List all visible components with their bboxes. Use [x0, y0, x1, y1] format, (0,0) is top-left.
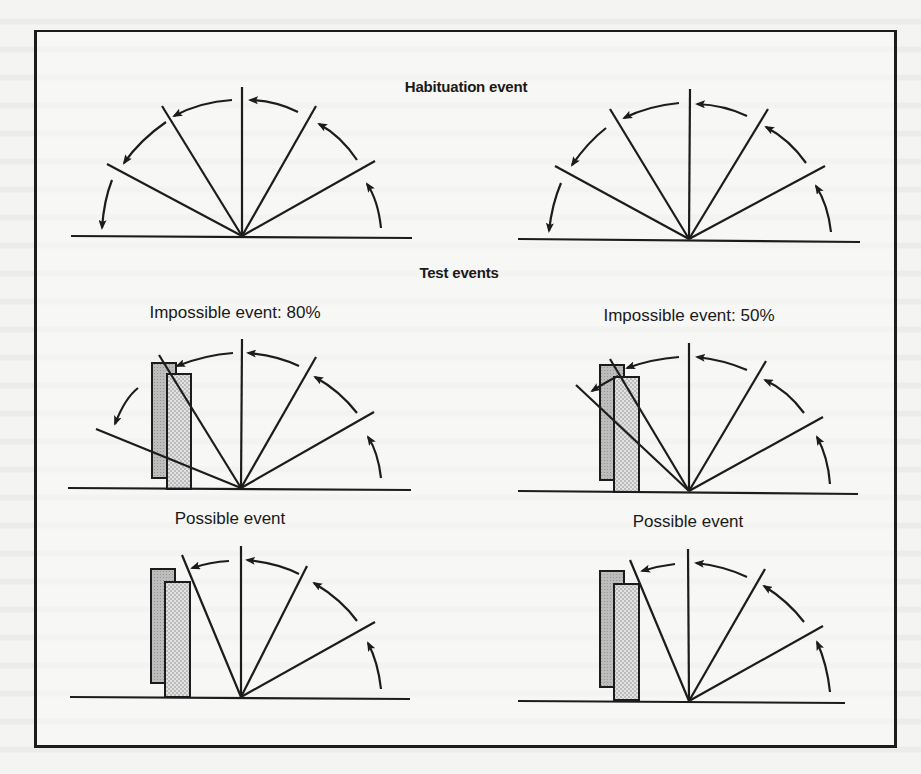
arrow-icon [696, 563, 747, 577]
arrow-icon [816, 186, 831, 232]
screen-position-90 [688, 549, 689, 701]
box-front [167, 374, 191, 489]
arrow-icon [174, 100, 232, 116]
box-front [614, 377, 639, 492]
arrow-icon [627, 357, 679, 368]
habituation-right-panel [518, 89, 860, 242]
ground-line [518, 701, 845, 703]
screen-position-120 [162, 106, 242, 236]
arrow-icon [248, 353, 299, 366]
arrow-icon [247, 560, 299, 574]
arrow-icon [642, 564, 675, 571]
arrow-icon [177, 353, 233, 366]
arrow-icon [624, 103, 679, 118]
screen-position-30 [689, 417, 823, 491]
screen-position-90 [241, 339, 242, 488]
arrow-icon [765, 380, 804, 413]
screen-position-60 [242, 106, 316, 236]
arrow-icon [250, 100, 298, 112]
screen-position-60 [241, 357, 316, 488]
screen-position-150 [555, 166, 689, 239]
screen-position-30 [689, 166, 825, 239]
screen-position-120 [610, 109, 689, 239]
possible-right-label: Possible event [633, 512, 744, 532]
arrow-icon [319, 124, 357, 160]
arrow-icon [368, 643, 381, 689]
screen-position-30 [689, 626, 823, 701]
screen-position-30 [241, 412, 374, 488]
arrow-icon [764, 586, 804, 622]
arrow-icon [115, 388, 138, 424]
drawbridge-diagram [0, 0, 921, 774]
arrow-icon [766, 127, 806, 163]
impossible-50-label: Impossible event: 50% [603, 306, 774, 326]
arrow-icon [817, 437, 830, 484]
screen-position-60 [689, 569, 765, 701]
impossible-80-label: Impossible event: 80% [149, 303, 320, 323]
screen-position-150 [107, 164, 242, 236]
impossible-80-panel [68, 339, 411, 490]
arrow-icon [549, 183, 561, 231]
arrow-icon [697, 357, 747, 370]
arrow-icon [102, 180, 112, 228]
screen-position-90 [689, 89, 690, 239]
arrow-icon [817, 642, 830, 692]
arrow-icon [697, 104, 747, 116]
arrow-icon [367, 184, 381, 228]
possible-left-panel [70, 546, 410, 699]
arrow-icon [572, 128, 606, 165]
possible-left-label: Possible event [175, 509, 286, 529]
screen-position-60 [689, 361, 766, 491]
arrow-icon [192, 561, 229, 568]
arrow-icon [124, 122, 166, 163]
habituation-left-panel [71, 87, 412, 238]
box-front [165, 582, 190, 697]
arrow-icon [315, 377, 357, 413]
screen-position-60 [689, 109, 768, 239]
section-heading: Test events [419, 264, 498, 281]
figure-title: Habituation event [405, 78, 527, 95]
box-front [614, 584, 639, 700]
impossible-50-panel [518, 343, 858, 494]
arrow-icon [368, 437, 381, 478]
arrow-icon [314, 583, 357, 621]
screen-position-30 [242, 161, 375, 236]
possible-right-panel [518, 549, 845, 703]
ground-line [518, 239, 860, 242]
